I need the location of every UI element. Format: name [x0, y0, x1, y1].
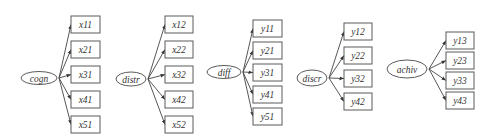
loading-arrow-achiv-y33 — [429, 69, 446, 81]
loading-arrow-discr-y22 — [329, 56, 344, 79]
indicator-label: x22 — [171, 45, 186, 55]
loading-arrow-distr-x52 — [148, 79, 165, 125]
indicator-label: y43 — [452, 96, 467, 106]
indicator-x22: x22 — [165, 41, 193, 58]
loading-arrow-distr-x12 — [148, 25, 165, 80]
indicator-label: y32 — [350, 74, 365, 84]
indicator-label: y51 — [260, 112, 275, 122]
indicator-y31: y31 — [253, 64, 282, 81]
indicator-x51: x51 — [71, 116, 100, 133]
factor-diff: diff — [207, 66, 241, 79]
indicator-label: x41 — [78, 95, 93, 105]
indicator-y13: y13 — [446, 32, 474, 49]
indicator-label: y41 — [260, 90, 275, 100]
loading-arrow-distr-x22 — [148, 50, 165, 80]
loading-arrow-cogn-x51 — [59, 78, 71, 125]
indicator-label: x51 — [78, 120, 93, 130]
indicator-label: x11 — [78, 20, 92, 30]
loading-arrow-discr-y42 — [329, 78, 344, 102]
diagram-svg: x11x21x31x41x51cognx12x22x32x42x52distry… — [0, 0, 492, 138]
indicator-y33: y33 — [446, 72, 474, 89]
loading-arrow-cogn-x41 — [59, 78, 71, 100]
path-diagram: x11x21x31x41x51cognx12x22x32x42x52distry… — [0, 0, 492, 138]
indicator-x11: x11 — [71, 16, 100, 33]
indicator-label: y31 — [260, 68, 275, 78]
factor-achiv: achiv — [387, 60, 427, 78]
loading-arrow-diff-y31 — [243, 72, 253, 73]
loading-arrow-diff-y41 — [243, 72, 253, 95]
indicator-x42: x42 — [165, 91, 193, 108]
indicator-y22: y22 — [344, 47, 372, 64]
factor-discr: discr — [297, 70, 327, 86]
indicator-y11: y11 — [253, 20, 282, 37]
indicator-x41: x41 — [71, 91, 100, 108]
loading-arrow-distr-x42 — [148, 79, 165, 100]
indicator-y42: y42 — [344, 93, 372, 110]
nodes-layer: x11x21x31x41x51cognx12x22x32x42x52distry… — [21, 16, 474, 133]
indicator-y41: y41 — [253, 86, 282, 103]
indicator-x12: x12 — [165, 16, 193, 33]
indicator-x52: x52 — [165, 116, 193, 133]
latent-label: discr — [303, 74, 322, 84]
indicator-y21: y21 — [253, 42, 282, 59]
indicator-label: y42 — [350, 97, 365, 107]
loading-arrow-cogn-x21 — [59, 50, 71, 79]
indicator-x32: x32 — [165, 66, 193, 83]
indicator-y43: y43 — [446, 92, 474, 109]
indicator-y32: y32 — [344, 70, 372, 87]
indicator-x31: x31 — [71, 66, 100, 83]
indicator-y12: y12 — [344, 23, 372, 40]
loading-arrow-discr-y12 — [329, 32, 344, 79]
latent-label: distr — [122, 75, 140, 85]
loading-arrow-diff-y21 — [243, 51, 253, 73]
indicator-label: x32 — [171, 70, 186, 80]
indicator-label: y33 — [452, 76, 467, 86]
indicator-label: y13 — [452, 36, 467, 46]
indicator-label: y23 — [452, 56, 467, 66]
indicator-y51: y51 — [253, 108, 282, 125]
indicator-label: x42 — [171, 95, 186, 105]
indicator-label: x52 — [171, 120, 186, 130]
latent-label: diff — [218, 68, 232, 78]
indicator-label: x21 — [78, 45, 93, 55]
indicator-label: x12 — [171, 20, 186, 30]
loading-arrow-cogn-x11 — [59, 25, 71, 79]
factor-distr: distr — [116, 72, 146, 86]
indicator-label: y12 — [350, 27, 365, 37]
loading-arrow-discr-y32 — [329, 78, 344, 79]
indicator-x21: x21 — [71, 41, 100, 58]
indicator-y23: y23 — [446, 52, 474, 69]
loading-arrow-diff-y11 — [243, 29, 253, 73]
indicator-label: y11 — [260, 24, 274, 34]
indicator-label: y21 — [260, 46, 275, 56]
indicator-label: y22 — [350, 51, 365, 61]
latent-label: cogn — [30, 74, 49, 84]
loading-arrow-diff-y51 — [243, 72, 253, 117]
loading-arrow-achiv-y43 — [429, 69, 446, 101]
indicator-label: x31 — [78, 70, 93, 80]
latent-label: achiv — [397, 65, 418, 75]
loading-arrow-cogn-x31 — [59, 75, 71, 79]
factor-cogn: cogn — [21, 72, 57, 85]
